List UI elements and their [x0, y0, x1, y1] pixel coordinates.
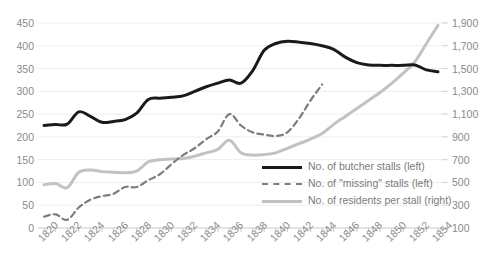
y-axis-left-tick-label: 0	[0, 223, 34, 234]
legend-label-residents-per-stall: No. of residents per stall (right)	[308, 195, 452, 206]
y-axis-right-tick-label: 1,700	[452, 41, 478, 52]
y-axis-left-tick-label: 50	[0, 200, 34, 211]
legend-label-missing-stalls: No. of "missing" stalls (left)	[308, 178, 433, 189]
y-axis-left-tick-label: 450	[0, 18, 34, 29]
y-axis-left-tick-label: 100	[0, 177, 34, 188]
series-line	[44, 41, 438, 125]
legend-swatch-solid-lightgrey-icon	[262, 196, 302, 206]
legend-item-butcher-stalls: No. of butcher stalls (left)	[262, 158, 452, 175]
y-axis-right-tick-label: 1,300	[452, 86, 478, 97]
y-axis-right-tick-label: 500	[452, 177, 470, 188]
y-axis-left-tick-label: 250	[0, 109, 34, 120]
y-axis-right-tick-label: 100	[452, 223, 470, 234]
y-axis-left-tick-label: 300	[0, 86, 34, 97]
y-axis-right-tick-label: 1,100	[452, 109, 478, 120]
y-axis-left-tick-label: 150	[0, 155, 34, 166]
y-axis-right-tick-label: 1,500	[452, 64, 478, 75]
y-axis-right-tick-label: 900	[452, 132, 470, 143]
legend-item-missing-stalls: No. of "missing" stalls (left)	[262, 175, 452, 192]
chart-legend: No. of butcher stalls (left) No. of "mis…	[262, 158, 452, 209]
y-axis-left-tick-label: 200	[0, 132, 34, 143]
legend-swatch-dashed-grey-icon	[262, 179, 302, 189]
legend-item-residents-per-stall: No. of residents per stall (right)	[262, 192, 452, 209]
y-axis-left-tick-label: 400	[0, 41, 34, 52]
y-axis-right-tick-label: 1,900	[452, 18, 478, 29]
y-axis-left-tick-label: 350	[0, 64, 34, 75]
legend-swatch-solid-black-icon	[262, 162, 302, 172]
chart-container: 050100150200250300350400450 100300500700…	[0, 0, 494, 269]
y-axis-right-tick-label: 300	[452, 200, 470, 211]
y-axis-right-tick-label: 700	[452, 155, 470, 166]
legend-label-butcher-stalls: No. of butcher stalls (left)	[308, 161, 425, 172]
